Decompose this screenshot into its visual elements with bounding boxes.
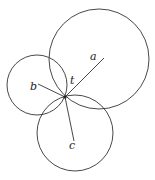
radius-b [38, 84, 65, 97]
diagram-canvas [0, 0, 155, 180]
label-c: c [69, 140, 75, 151]
circles-diagram: a b t c [0, 0, 155, 180]
circle-c [37, 95, 113, 171]
radius-c [65, 97, 74, 141]
label-a: a [90, 51, 97, 62]
label-b: b [30, 81, 37, 92]
circle-a [49, 9, 149, 109]
point-t [63, 95, 66, 98]
label-t: t [70, 75, 74, 86]
